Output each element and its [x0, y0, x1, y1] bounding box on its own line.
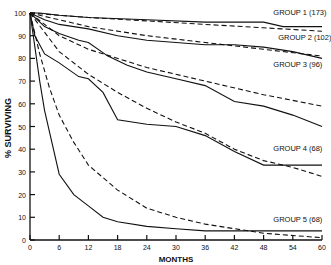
y-tick-label: 60 — [18, 101, 26, 108]
survival-chart: GROUP 1 (173)GROUP 2 (102)GROUP 3 (96)GR… — [0, 0, 331, 265]
plot-area: GROUP 1 (173)GROUP 2 (102)GROUP 3 (96)GR… — [30, 8, 331, 237]
y-tick-label: 40 — [18, 146, 26, 153]
y-tick-label: 70 — [18, 78, 26, 85]
x-tick-label: 6 — [57, 244, 61, 251]
y-axis-label: % SURVIVING — [3, 98, 13, 158]
x-tick-label: 60 — [318, 244, 326, 251]
y-tick-label: 80 — [18, 55, 26, 62]
x-tick-label: 30 — [172, 244, 180, 251]
x-axis-label: MONTHS — [159, 255, 194, 264]
y-tick-label: 20 — [18, 192, 26, 199]
x-tick-label: 42 — [231, 244, 239, 251]
observed-survival-curve — [30, 13, 322, 127]
x-tick-label: 12 — [85, 244, 93, 251]
y-tick-label: 90 — [18, 33, 26, 40]
y-tick-label: 0 — [22, 237, 26, 244]
x-tick-label: 36 — [201, 244, 209, 251]
group-label: GROUP 3 (96) — [273, 60, 323, 69]
expected-survival-curve — [30, 13, 322, 238]
y-tick-label: 50 — [18, 124, 26, 131]
x-tick-label: 0 — [28, 244, 32, 251]
x-tick-label: 24 — [143, 244, 151, 251]
y-tick-label: 30 — [18, 169, 26, 176]
group-label: GROUP 5 (68) — [273, 215, 323, 224]
x-tick-label: 48 — [260, 244, 268, 251]
x-tick-label: 54 — [289, 244, 297, 251]
group-label: GROUP 1 (173) — [273, 8, 327, 17]
group-label: GROUP 4 (68) — [273, 144, 323, 153]
group-label: GROUP 2 (102) — [278, 33, 331, 42]
x-tick-label: 18 — [114, 244, 122, 251]
y-tick-label: 10 — [18, 214, 26, 221]
y-tick-label: 100 — [14, 10, 26, 17]
